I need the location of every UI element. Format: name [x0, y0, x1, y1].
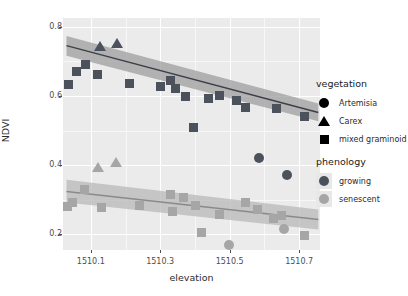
data-point: [80, 185, 89, 194]
legend-key: [316, 113, 332, 129]
legend-phenology: phenology growingsenescent: [316, 156, 380, 209]
data-point: [181, 92, 190, 101]
triangle-icon: [318, 116, 330, 126]
legend-item-mixed-graminoid[interactable]: mixed graminoid: [316, 131, 407, 147]
data-point: [72, 67, 81, 76]
legend-key: [316, 191, 332, 207]
circle-icon: [319, 194, 329, 204]
circle-icon: [319, 176, 329, 186]
data-point: [254, 153, 264, 163]
data-point: [215, 91, 224, 100]
x-tick-label: 1510.3: [146, 257, 174, 266]
y-tick-mark: [59, 234, 62, 235]
legend-item-label: Artemisia: [339, 99, 377, 108]
data-point: [110, 157, 122, 167]
legend-item-label: Carex: [339, 117, 362, 126]
x-tick-mark: [160, 250, 161, 253]
data-point: [241, 103, 250, 112]
data-point: [277, 211, 286, 220]
x-tick-label: 1510.7: [285, 257, 313, 266]
regression-line-growing: [67, 46, 319, 113]
legend-phenology-title: phenology: [316, 156, 380, 167]
data-point: [215, 210, 224, 219]
y-axis-label: NDVI: [0, 119, 11, 143]
legend-key: [316, 131, 332, 147]
x-tick-mark: [299, 250, 300, 253]
data-point: [272, 104, 281, 113]
x-axis-label: elevation: [63, 272, 320, 283]
data-point: [253, 205, 262, 214]
legend-item-carex[interactable]: Carex: [316, 113, 407, 129]
data-point: [125, 79, 134, 88]
data-point: [300, 112, 309, 121]
data-point: [156, 82, 165, 91]
data-point: [300, 231, 309, 240]
square-icon: [320, 135, 329, 144]
legend-key: [316, 95, 332, 111]
y-tick-mark: [59, 96, 62, 97]
legend-item-label: senescent: [339, 195, 380, 204]
legend-phenology-items: growingsenescent: [316, 173, 380, 207]
legend-item-label: growing: [339, 177, 371, 186]
data-point: [224, 240, 234, 250]
data-point: [92, 162, 104, 172]
data-point: [279, 224, 289, 234]
data-point: [94, 41, 106, 51]
legend-key: [316, 173, 332, 189]
data-point: [111, 38, 123, 48]
legend-item-senescent[interactable]: senescent: [316, 191, 380, 207]
legend-vegetation-title: vegetation: [316, 78, 407, 89]
chart-root: NDVI 0.20.40.60.8 1510.11510.31510.51510…: [0, 0, 408, 296]
y-tick-mark: [59, 27, 62, 28]
data-point: [191, 201, 200, 210]
data-point: [93, 70, 102, 79]
data-point: [81, 60, 90, 69]
data-point: [135, 201, 144, 210]
data-point: [189, 123, 198, 132]
data-point: [166, 190, 175, 199]
y-tick-mark: [59, 165, 62, 166]
data-point: [168, 207, 177, 216]
x-tick-mark: [230, 250, 231, 253]
data-point: [197, 228, 206, 237]
data-point: [64, 80, 73, 89]
data-point: [241, 198, 250, 207]
data-point: [68, 198, 77, 207]
legend-item-growing[interactable]: growing: [316, 173, 380, 189]
data-point: [97, 203, 106, 212]
plot-panel: [63, 18, 320, 250]
x-tick-label: 1510.1: [77, 257, 105, 266]
data-point: [269, 214, 278, 223]
circle-icon: [319, 98, 329, 108]
x-tick-label: 1510.5: [216, 257, 244, 266]
legend-item-artemisia[interactable]: Artemisia: [316, 95, 407, 111]
legend-item-label: mixed graminoid: [339, 135, 407, 144]
data-point: [232, 96, 241, 105]
data-point: [171, 84, 180, 93]
legend-vegetation-items: ArtemisiaCarexmixed graminoid: [316, 95, 407, 147]
data-point: [179, 193, 188, 202]
data-point: [204, 94, 213, 103]
x-tick-mark: [91, 250, 92, 253]
legend-vegetation: vegetation ArtemisiaCarexmixed graminoid: [316, 78, 407, 149]
